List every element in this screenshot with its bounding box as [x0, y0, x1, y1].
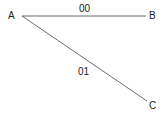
node-c-label: C: [149, 101, 156, 111]
edge-a-c: [22, 16, 147, 101]
diagram-edges: [0, 0, 167, 114]
edge-a-b-label: 00: [79, 4, 90, 14]
node-a-label: A: [8, 11, 15, 21]
node-b-label: B: [149, 11, 156, 21]
edge-a-c-label: 01: [78, 67, 89, 77]
